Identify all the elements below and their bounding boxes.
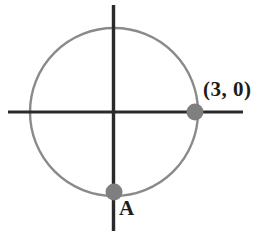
point-b-label: (3, 0) <box>203 79 252 100</box>
point-marker-b <box>187 104 204 121</box>
geometry-figure: (3, 0) A <box>0 0 259 231</box>
point-a-label: A <box>119 198 134 219</box>
